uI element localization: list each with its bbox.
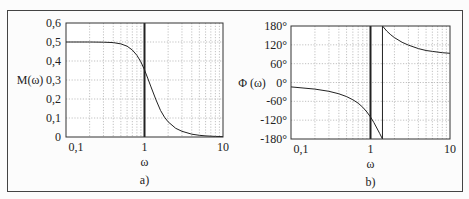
y-tick-label: 0,1 — [46, 111, 61, 125]
panel-b-phase: -180°-120°-60°0°60°120°180°0,1110Φ (ω)ωb… — [238, 19, 456, 189]
panel-label: b) — [366, 175, 376, 189]
y-tick-label: -180° — [260, 132, 287, 146]
panel-a-magnitude: 00,10,20,30,40,50,60,1110M(ω)ωa) — [17, 16, 229, 187]
y-tick-label: 0,6 — [46, 16, 61, 30]
panel-label: a) — [140, 173, 149, 187]
y-tick-label: -120° — [260, 113, 287, 127]
x-tick-label: 1 — [142, 140, 148, 154]
y-tick-label: 0,5 — [46, 35, 61, 49]
y-axis-label: Φ (ω) — [238, 76, 266, 90]
x-axis-label: ω — [141, 155, 149, 169]
x-tick-label: 0,1 — [69, 140, 84, 154]
y-tick-label: 0° — [276, 76, 287, 90]
y-tick-label: 0,2 — [46, 92, 61, 106]
x-tick-label: 10 — [444, 142, 456, 156]
x-tick-label: 10 — [217, 140, 229, 154]
y-tick-label: -60° — [266, 94, 287, 108]
figure: 00,10,20,30,40,50,60,1110M(ω)ωa) -180°-1… — [0, 0, 469, 199]
y-tick-label: 0,3 — [46, 73, 61, 87]
y-tick-label: 120° — [264, 38, 287, 52]
x-tick-label: 0,1 — [294, 142, 309, 156]
y-tick-label: 0 — [55, 130, 61, 144]
y-tick-label: 60° — [270, 57, 287, 71]
x-tick-label: 1 — [368, 142, 374, 156]
y-tick-label: 180° — [264, 19, 287, 33]
y-axis-label: M(ω) — [17, 73, 44, 87]
x-axis-label: ω — [367, 157, 375, 171]
y-tick-label: 0,4 — [46, 54, 61, 68]
